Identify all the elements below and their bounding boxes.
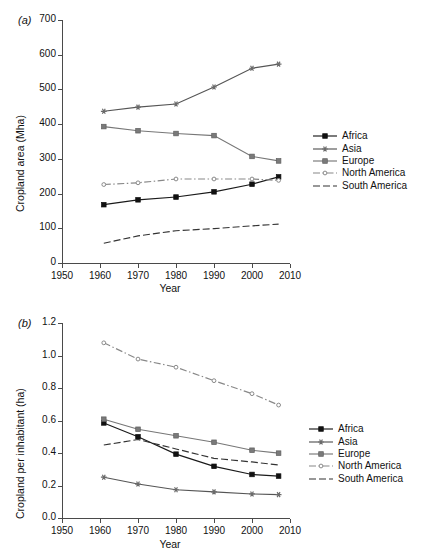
y-tick-label: 0.6 [18,414,56,425]
legend-key-icon [308,423,334,435]
x-tick [176,264,177,268]
legend-key-icon [308,436,334,448]
x-tick-label: 2010 [270,270,310,281]
x-tick-label: 1970 [118,525,158,536]
legend-label: Asia [342,143,361,155]
chart-panel-a: (a) Cropland area (Mha) Year 01002003004… [0,0,427,300]
x-tick-label: 1960 [80,525,120,536]
x-tick-label: 1960 [80,270,120,281]
panel-b-x-axis-title: Year [120,538,220,550]
x-tick [214,264,215,268]
legend-item-asia[interactable]: Asia [308,435,403,447]
x-tick [62,519,63,523]
y-tick-label: 1.0 [18,349,56,360]
legend-label: Africa [342,130,368,142]
legend-key-icon [312,143,338,155]
x-tick-label: 1950 [42,525,82,536]
x-tick [100,519,101,523]
chart-panel-b: (b) Cropland per inhabitant (ha) Year 0.… [0,305,427,560]
x-tick-label: 2010 [270,525,310,536]
y-tick-label: 300 [18,152,56,163]
legend-key-icon [312,167,338,179]
y-tick-label: 100 [18,221,56,232]
x-tick [138,519,139,523]
legend-label: Africa [338,423,364,435]
x-tick-label: 1990 [194,525,234,536]
x-tick-label: 2000 [232,270,272,281]
x-tick [252,519,253,523]
legend-label: North America [342,167,405,179]
figure-cropland: (a) Cropland area (Mha) Year 01002003004… [0,0,427,560]
x-tick [290,519,291,523]
panel-b-legend: AfricaAsiaEuropeNorth AmericaSouth Ameri… [308,423,403,485]
series-europe [102,417,281,456]
panel-a-legend: AfricaAsiaEuropeNorth AmericaSouth Ameri… [312,130,407,192]
x-tick [176,519,177,523]
series-asia [101,475,282,497]
x-tick-label: 1950 [42,270,82,281]
series-europe [102,124,281,163]
panel-b-plot-area: 0.00.20.40.60.81.01.21950196019701980199… [62,323,290,518]
legend-item-asia[interactable]: Asia [312,142,407,154]
y-tick-label: 400 [18,117,56,128]
series-south-america [104,224,279,243]
x-tick-label: 2000 [232,525,272,536]
legend-key-icon [308,473,334,485]
series-asia [101,62,282,114]
y-tick-label: 1.2 [18,316,56,327]
y-tick-label: 0.0 [18,511,56,522]
legend-key-icon [308,448,334,460]
legend-item-europe[interactable]: Europe [308,448,403,460]
legend-item-north-america[interactable]: North America [308,460,403,472]
legend-label: North America [338,460,401,472]
legend-label: Europe [342,155,374,167]
legend-key-icon [308,460,334,472]
legend-item-south-america[interactable]: South America [312,180,407,192]
legend-label: Asia [338,436,357,448]
x-tick-label: 1980 [156,270,196,281]
y-tick-label: 200 [18,187,56,198]
legend-key-icon [312,155,338,167]
legend-item-north-america[interactable]: North America [312,167,407,179]
y-tick-label: 0.4 [18,446,56,457]
x-tick [138,264,139,268]
panel-a-x-axis-title: Year [120,282,220,294]
legend-label: South America [338,473,403,485]
y-tick-label: 700 [18,13,56,24]
x-tick [62,264,63,268]
y-tick-label: 0.8 [18,381,56,392]
x-tick [290,264,291,268]
legend-key-icon [312,180,338,192]
legend-label: South America [342,180,407,192]
y-tick-label: 500 [18,82,56,93]
x-tick-label: 1980 [156,525,196,536]
legend-item-africa[interactable]: Africa [308,423,403,435]
legend-item-europe[interactable]: Europe [312,155,407,167]
series-layer [62,323,290,518]
x-tick [252,264,253,268]
legend-item-south-america[interactable]: South America [308,473,403,485]
panel-a-plot-area: 0100200300400500600700195019601970198019… [62,20,290,263]
y-tick-label: 0.2 [18,479,56,490]
series-layer [62,20,290,263]
x-tick [214,519,215,523]
legend-item-africa[interactable]: Africa [312,130,407,142]
x-tick-label: 1970 [118,270,158,281]
series-north-america [102,341,281,407]
y-tick-label: 0 [18,256,56,267]
x-tick-label: 1990 [194,270,234,281]
legend-label: Europe [338,448,370,460]
legend-key-icon [312,130,338,142]
y-tick-label: 600 [18,48,56,59]
x-tick [100,264,101,268]
